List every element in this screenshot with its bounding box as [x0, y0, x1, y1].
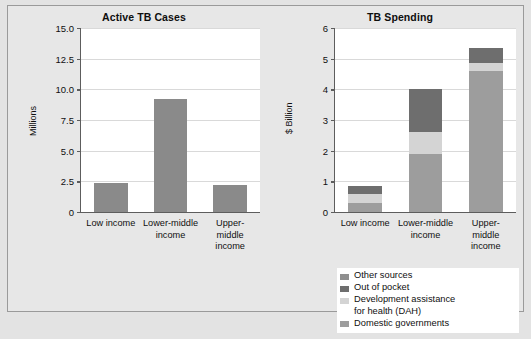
panel-active-tb-cases: Active TB Cases Millions 02.55.07.510.01… [18, 6, 270, 266]
legend-item: Development assistance for health (DAH) [340, 294, 516, 317]
bar-segment [469, 71, 503, 212]
legend-swatch-icon [340, 298, 349, 304]
bar-segment [469, 63, 503, 71]
bar-0-0 [94, 183, 127, 212]
bar-1-2 [469, 48, 503, 212]
gridline [335, 28, 516, 29]
y-tick-mark [77, 89, 81, 90]
bar-0-2 [213, 185, 246, 212]
category-label: Lower-middle income [398, 218, 453, 241]
chart-title-left: Active TB Cases [18, 11, 270, 23]
figure-frame: Active TB Cases Millions 02.55.07.510.01… [7, 5, 524, 312]
y-tick-label: 6 [323, 23, 328, 34]
y-tick-mark [331, 212, 335, 213]
legend-swatch-icon [340, 274, 349, 280]
panel-tb-spending: TB Spending $ Billion 0123456Low incomeL… [276, 6, 524, 266]
legend: Other sourcesOut of pocketDevelopment as… [337, 268, 519, 333]
bar-segment [348, 186, 382, 194]
gridline [81, 89, 260, 90]
y-tick-mark [77, 120, 81, 121]
bar-segment [348, 203, 382, 212]
category-label: Upper-middle income [215, 218, 245, 253]
bar-segment [409, 154, 443, 212]
y-tick-mark [77, 212, 81, 213]
y-tick-mark [331, 28, 335, 29]
y-tick-label: 5.0 [61, 145, 74, 156]
y-tick-mark [331, 151, 335, 152]
legend-item: Out of pocket [340, 282, 516, 294]
legend-label: Other sources [354, 270, 412, 282]
y-tick-mark [77, 59, 81, 60]
y-tick-mark [331, 120, 335, 121]
legend-swatch-icon [340, 321, 349, 327]
bar-1-0 [348, 186, 382, 212]
gridline [81, 59, 260, 60]
plot-area-left: 02.55.07.510.012.515.0Low incomeLower-mi… [80, 28, 260, 213]
y-axis-label-right: $ Billion [284, 102, 294, 134]
bar-segment [409, 89, 443, 132]
y-tick-mark [77, 28, 81, 29]
y-tick-label: 15.0 [56, 23, 75, 34]
legend-label: Out of pocket [354, 282, 409, 294]
y-tick-label: 12.5 [56, 53, 75, 64]
legend-label: Domestic governments [354, 318, 449, 330]
bar-segment [348, 194, 382, 203]
chart-title-right: TB Spending [276, 11, 524, 23]
bar-1-1 [409, 89, 443, 212]
y-tick-label: 2.5 [61, 176, 74, 187]
bar-segment [469, 48, 503, 63]
bar-0-1 [154, 99, 187, 212]
y-tick-mark [77, 181, 81, 182]
category-label: Upper-middle income [471, 218, 501, 253]
y-tick-label: 2 [323, 145, 328, 156]
y-tick-mark [331, 59, 335, 60]
category-label: Low income [341, 218, 390, 230]
figure-canvas: Active TB Cases Millions 02.55.07.510.01… [0, 0, 531, 339]
y-tick-label: 10.0 [56, 84, 75, 95]
bar-segment [409, 132, 443, 154]
y-tick-label: 3 [323, 115, 328, 126]
category-label: Low income [86, 218, 135, 230]
gridline [81, 28, 260, 29]
plot-area-right: 0123456Low incomeLower-middle incomeUppe… [334, 28, 516, 213]
y-tick-label: 0 [69, 207, 74, 218]
legend-swatch-icon [340, 286, 349, 292]
legend-item: Other sources [340, 270, 516, 282]
y-tick-label: 0 [323, 207, 328, 218]
y-tick-label: 7.5 [61, 115, 74, 126]
category-label: Lower-middle income [143, 218, 198, 241]
legend-item: Domestic governments [340, 318, 516, 330]
y-tick-mark [331, 181, 335, 182]
y-tick-label: 1 [323, 176, 328, 187]
y-tick-label: 4 [323, 84, 328, 95]
legend-label: Development assistance for health (DAH) [354, 294, 455, 317]
y-tick-mark [331, 89, 335, 90]
y-tick-mark [77, 151, 81, 152]
y-tick-label: 5 [323, 53, 328, 64]
y-axis-label-left: Millions [28, 106, 38, 136]
